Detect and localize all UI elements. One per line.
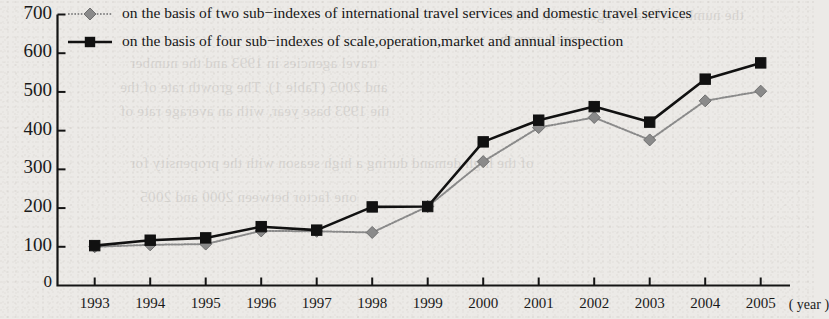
x-axis-tick-label: 1993	[68, 295, 122, 312]
data-point-diamond[interactable]	[366, 226, 378, 238]
x-axis-tick-label: 1998	[345, 295, 399, 312]
x-axis-tick-label: 2004	[678, 295, 732, 312]
x-axis-tick-label: 2003	[623, 295, 677, 312]
legend-label: on the basis of four sub−indexes of scal…	[122, 32, 623, 50]
data-point-square[interactable]	[90, 240, 100, 250]
x-axis-tick-label: 2002	[567, 295, 621, 312]
y-axis-ticks	[58, 15, 66, 247]
x-axis-tick-label: 1996	[234, 295, 288, 312]
data-point-square[interactable]	[256, 221, 266, 231]
data-point-square[interactable]	[589, 101, 599, 111]
x-axis-tick-label: 2005	[734, 295, 788, 312]
diamond-marker-icon	[84, 8, 96, 20]
y-axis-tick-label: 600	[0, 40, 52, 62]
y-axis-tick-label: 200	[0, 195, 52, 217]
x-axis-tick-label: 1999	[401, 295, 455, 312]
x-axis-tick-label: 1994	[123, 295, 177, 312]
data-point-diamond[interactable]	[699, 95, 711, 107]
square-marker-icon	[85, 37, 95, 47]
data-point-square[interactable]	[478, 137, 488, 147]
data-point-square[interactable]	[756, 58, 766, 68]
x-axis-tick-label: 2001	[512, 295, 566, 312]
y-axis-tick-label: 400	[0, 118, 52, 140]
legend-item-1[interactable]	[68, 8, 112, 20]
legend-label: on the basis of two sub−indexes of inter…	[122, 4, 692, 22]
data-point-diamond[interactable]	[755, 85, 767, 97]
data-point-square[interactable]	[534, 115, 544, 125]
x-axis-tick-label: 2000	[456, 295, 510, 312]
series-line	[95, 63, 761, 246]
x-axis-ticks	[95, 278, 761, 286]
x-axis-tick-label: 1997	[290, 295, 344, 312]
y-axis-tick-label: 0	[26, 272, 52, 292]
y-axis-tick-label: 100	[0, 234, 52, 256]
data-point-diamond[interactable]	[588, 111, 600, 123]
y-axis-tick-label: 300	[0, 156, 52, 178]
x-axis-unit-label: ( year )	[789, 297, 829, 313]
y-axis-tick-label: 700	[0, 2, 52, 24]
data-point-square[interactable]	[145, 235, 155, 245]
y-axis-tick-label: 500	[0, 79, 52, 101]
data-point-square[interactable]	[645, 117, 655, 127]
x-axis-tick-label: 1995	[179, 295, 233, 312]
data-point-square[interactable]	[367, 202, 377, 212]
series-2	[90, 58, 766, 251]
data-point-square[interactable]	[423, 201, 433, 211]
data-point-square[interactable]	[201, 233, 211, 243]
data-point-square[interactable]	[700, 74, 710, 84]
legend-item-2[interactable]	[68, 37, 112, 47]
data-point-square[interactable]	[312, 225, 322, 235]
